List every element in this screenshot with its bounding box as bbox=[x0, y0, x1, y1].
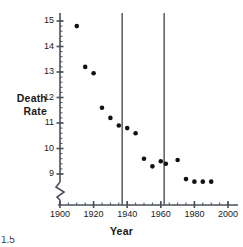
data-point bbox=[83, 65, 88, 70]
x-axis-tick-label: 1920 bbox=[81, 209, 107, 219]
data-point bbox=[164, 162, 169, 167]
y-axis-tick-label: 13 bbox=[40, 66, 54, 76]
data-point bbox=[108, 116, 113, 121]
y-axis-break-symbol bbox=[56, 182, 64, 200]
data-point bbox=[159, 159, 164, 164]
data-point bbox=[175, 158, 180, 163]
x-axis-tick-label: 2000 bbox=[215, 209, 241, 219]
x-axis-tick-label: 1940 bbox=[114, 209, 140, 219]
y-axis-tick-label: 11 bbox=[40, 117, 54, 127]
data-point bbox=[209, 179, 214, 184]
data-point bbox=[201, 179, 206, 184]
data-point bbox=[125, 126, 130, 131]
page-corner-fragment: 1.5 bbox=[1, 236, 41, 247]
x-axis-tick-label: 1900 bbox=[47, 209, 73, 219]
data-point bbox=[100, 105, 105, 110]
x-axis-tick-label: 1980 bbox=[181, 209, 207, 219]
y-axis-tick-label: 9 bbox=[40, 168, 54, 178]
x-axis-tick-label: 1960 bbox=[148, 209, 174, 219]
data-point bbox=[150, 164, 155, 169]
reference-lines-group bbox=[122, 13, 164, 205]
y-axis-tick-label: 14 bbox=[40, 41, 54, 51]
data-point bbox=[184, 177, 189, 182]
data-point bbox=[75, 24, 80, 29]
data-point bbox=[142, 156, 147, 161]
data-point bbox=[133, 131, 138, 136]
axes-group bbox=[56, 13, 238, 208]
data-points-group bbox=[75, 24, 214, 184]
data-point bbox=[91, 71, 96, 76]
data-point bbox=[192, 179, 197, 184]
y-axis-tick-label: 10 bbox=[40, 143, 54, 153]
data-point bbox=[117, 123, 122, 128]
y-axis-tick-label: 15 bbox=[40, 15, 54, 25]
death-rate-scatter-chart: Death Rate Year 1.5 9101112131415 190019… bbox=[0, 0, 243, 247]
y-axis-tick-label: 12 bbox=[40, 92, 54, 102]
